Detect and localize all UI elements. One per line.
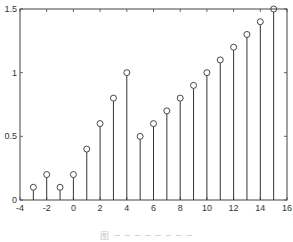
stem-plot: -4-2024681012141600.511.5 xyxy=(0,0,293,225)
x-tick-label: 10 xyxy=(202,203,212,213)
stem-marker xyxy=(30,184,36,190)
stem-marker xyxy=(151,121,157,127)
x-tick-label: 14 xyxy=(255,203,265,213)
y-tick-label: 1 xyxy=(12,68,17,78)
stem-marker xyxy=(204,70,210,76)
stem-marker xyxy=(244,31,250,37)
stem-marker xyxy=(177,95,183,101)
x-tick-label: 2 xyxy=(98,203,103,213)
y-tick-label: 0.5 xyxy=(4,131,17,141)
stem-marker xyxy=(191,82,197,88)
stem-marker xyxy=(257,19,263,25)
x-tick-label: -2 xyxy=(43,203,51,213)
figure-caption: 图 ─ ─ ─ ─ ─ ─ ─ ─ xyxy=(0,229,293,242)
stem-marker xyxy=(231,44,237,50)
stem-marker xyxy=(97,121,103,127)
stem-marker xyxy=(217,57,223,63)
stem-marker xyxy=(164,108,170,114)
x-tick-label: 0 xyxy=(71,203,76,213)
x-tick-label: 16 xyxy=(282,203,292,213)
stem-marker xyxy=(84,146,90,152)
stem-marker xyxy=(137,133,143,139)
x-tick-label: -4 xyxy=(16,203,24,213)
stem-marker xyxy=(70,172,76,178)
y-tick-label: 1.5 xyxy=(4,4,17,14)
x-tick-label: 6 xyxy=(151,203,156,213)
x-tick-label: 8 xyxy=(178,203,183,213)
stem-marker xyxy=(44,172,50,178)
stem-marker xyxy=(57,184,63,190)
stem-marker xyxy=(124,70,130,76)
x-tick-label: 12 xyxy=(229,203,239,213)
stem-marker xyxy=(110,95,116,101)
x-tick-label: 4 xyxy=(124,203,129,213)
y-tick-label: 0 xyxy=(12,195,17,205)
